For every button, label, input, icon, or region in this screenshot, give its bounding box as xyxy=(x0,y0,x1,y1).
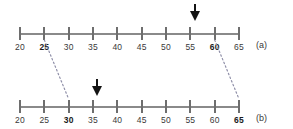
tick-label-b-30: 30 xyxy=(56,115,82,126)
tick-b-25 xyxy=(43,100,45,113)
tick-label-b-65: 65 xyxy=(226,115,252,126)
tick-label-b-20: 20 xyxy=(7,115,33,126)
tick-label-b-45: 45 xyxy=(129,115,155,126)
tick-label-a-35: 35 xyxy=(80,42,106,53)
tick-label-a-45: 45 xyxy=(129,42,155,53)
tick-b-55 xyxy=(189,100,191,113)
tick-label-b-55: 55 xyxy=(177,115,203,126)
row-label-b: (b) xyxy=(256,113,267,124)
tick-a-20 xyxy=(19,27,21,40)
tick-b-30 xyxy=(68,100,70,113)
tick-label-a-55: 55 xyxy=(177,42,203,53)
axis-line-b xyxy=(20,106,239,108)
number-line-figure: 20253035404550556065 (a) 202530354045505… xyxy=(0,0,293,129)
tick-b-20 xyxy=(19,100,21,113)
tick-b-45 xyxy=(141,100,143,113)
tick-a-40 xyxy=(116,27,118,40)
tick-b-65 xyxy=(238,100,240,113)
tick-a-65 xyxy=(238,27,240,40)
tick-a-50 xyxy=(165,27,167,40)
tick-label-b-35: 35 xyxy=(80,115,106,126)
tick-b-50 xyxy=(165,100,167,113)
tick-label-b-50: 50 xyxy=(153,115,179,126)
tick-a-25 xyxy=(43,27,45,40)
tick-b-35 xyxy=(92,100,94,113)
tick-a-60 xyxy=(214,27,216,40)
arrow-head-icon xyxy=(190,11,200,21)
tick-label-a-65: 65 xyxy=(226,42,252,53)
number-line-a: 20253035404550556065 (a) xyxy=(0,12,293,58)
tick-a-30 xyxy=(68,27,70,40)
tick-label-a-30: 30 xyxy=(56,42,82,53)
tick-label-b-40: 40 xyxy=(104,115,130,126)
tick-label-b-25: 25 xyxy=(31,115,57,126)
tick-label-a-20: 20 xyxy=(7,42,33,53)
tick-label-b-60: 60 xyxy=(202,115,228,126)
axis-line-a xyxy=(20,33,239,35)
tick-a-45 xyxy=(141,27,143,40)
tick-a-35 xyxy=(92,27,94,40)
number-line-b: 20253035404550556065 (b) xyxy=(0,85,293,129)
tick-label-a-60: 60 xyxy=(202,42,228,53)
tick-a-55 xyxy=(189,27,191,40)
tick-b-40 xyxy=(116,100,118,113)
arrow-head-icon xyxy=(92,86,102,96)
tick-label-a-50: 50 xyxy=(153,42,179,53)
tick-b-60 xyxy=(214,100,216,113)
tick-label-a-40: 40 xyxy=(104,42,130,53)
row-label-a: (a) xyxy=(256,40,267,51)
tick-label-a-25: 25 xyxy=(31,42,57,53)
